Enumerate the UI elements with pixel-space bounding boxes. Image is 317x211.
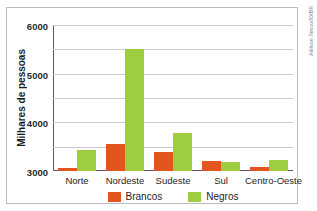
caption-strip: [6, 0, 302, 7]
y-axis-tick: 6000: [27, 21, 48, 32]
bar-groups: NorteNordesteSudesteSulCentro-Oeste: [53, 25, 293, 171]
y-axis-label-text: Milhares de pessoas: [16, 49, 27, 147]
bar-group: Sudeste: [149, 25, 197, 171]
legend-swatch: [108, 192, 121, 202]
bar-brancos: [154, 152, 173, 171]
bars: [197, 25, 245, 171]
bar-group: Nordeste: [101, 25, 149, 171]
bar-brancos: [250, 167, 269, 171]
x-axis-tick: Sudeste: [149, 175, 197, 186]
chart-figure: Milhares de pessoas 01000200030004000500…: [0, 0, 317, 211]
x-axis-tick: Norte: [53, 175, 101, 186]
bar-negros: [125, 49, 144, 171]
y-axis-tick: 3000: [27, 167, 48, 178]
bar-negros: [173, 133, 192, 171]
y-axis-label: Milhares de pessoas: [13, 25, 29, 171]
legend-swatch: [188, 192, 201, 202]
x-axis-tick: Sul: [197, 175, 245, 186]
bars: [245, 25, 293, 171]
bar-brancos: [106, 144, 125, 171]
x-axis-tick: Nordeste: [101, 175, 149, 186]
bar-negros: [77, 150, 96, 171]
y-axis-tick: 4000: [27, 118, 48, 129]
plot-area: 0100020003000400050006000 NorteNordesteS…: [53, 25, 293, 171]
legend-label: Negros: [206, 191, 238, 202]
x-axis-tick: Centro-Oeste: [245, 175, 293, 186]
bar-group: Sul: [197, 25, 245, 171]
bars: [53, 25, 101, 171]
legend-item-brancos: Brancos: [108, 191, 163, 202]
bar-brancos: [202, 161, 221, 171]
legend-item-negros: Negros: [188, 191, 238, 202]
bar-group: Centro-Oeste: [245, 25, 293, 171]
bar-brancos: [58, 168, 77, 171]
y-axis-tick: 5000: [27, 69, 48, 80]
bar-negros: [269, 160, 288, 171]
bars: [149, 25, 197, 171]
chart-card: Milhares de pessoas 01000200030004000500…: [6, 7, 298, 204]
image-credit-text: Adilson Secco/ID/BR: [308, 6, 314, 56]
legend-label: Brancos: [126, 191, 163, 202]
bar-group: Norte: [53, 25, 101, 171]
bars: [101, 25, 149, 171]
bar-negros: [221, 162, 240, 171]
chart-legend: BrancosNegros: [53, 191, 293, 202]
image-credit: Adilson Secco/ID/BR: [305, 6, 317, 126]
